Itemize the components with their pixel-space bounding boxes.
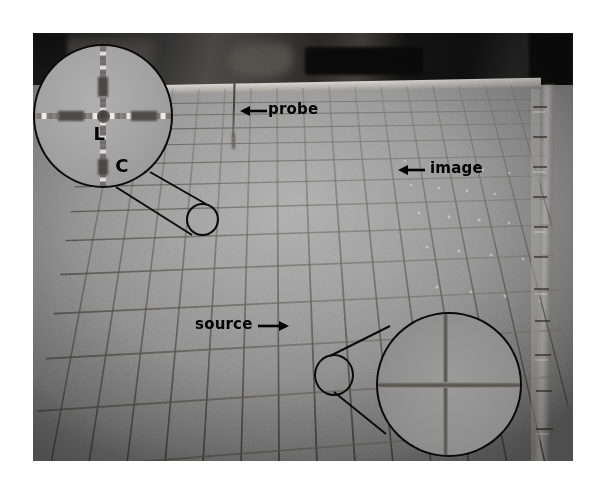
crosshair-left-element <box>58 111 84 121</box>
crosshair-center-junction <box>97 110 110 123</box>
crosshair-right-element <box>131 111 157 121</box>
figure-root: L C probe image source <box>0 0 607 489</box>
crosshair-top-element <box>98 77 108 97</box>
inset-origin-marker-top <box>186 203 219 236</box>
probe-arrow-icon <box>240 104 268 118</box>
image-arrow-icon <box>398 163 426 177</box>
annotation-label-image: image <box>430 159 483 177</box>
magnified-horizontal-wire <box>378 382 520 388</box>
inset-crosshair-magnifier: L C <box>33 44 173 188</box>
annotation-label-probe: probe <box>268 100 318 118</box>
inset-grid-crossing-magnifier <box>376 312 522 457</box>
annotation-label-source: source <box>195 315 253 333</box>
inset-label-capacitor: C <box>115 155 128 176</box>
source-arrow-icon <box>258 319 290 333</box>
inset-origin-marker-bottom <box>314 354 354 396</box>
crosshair-bottom-element <box>98 159 108 175</box>
inset-label-inductor: L <box>93 123 104 144</box>
